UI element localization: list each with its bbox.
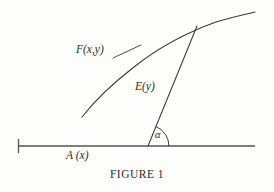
angle-label-alpha: α — [155, 130, 161, 141]
leader-line-f — [113, 45, 141, 58]
figure-container: F(x,y) E(y) A (x) α FIGURE 1 — [0, 0, 274, 192]
figure-drawing — [0, 0, 274, 192]
curve-label-f: F(x,y) — [76, 44, 104, 56]
ray-label-e: E(y) — [135, 81, 155, 93]
baseline-label-a: A (x) — [66, 150, 88, 162]
curve-f — [82, 12, 255, 117]
ray-e — [148, 26, 197, 146]
figure-caption: FIGURE 1 — [0, 168, 274, 180]
